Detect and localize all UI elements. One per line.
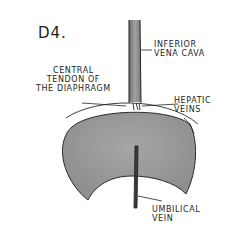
label-central-tendon: CENTRAL TENDON OF THE DIAPHRAGM — [36, 66, 111, 93]
inferior-vena-cava — [129, 20, 141, 102]
label-line: VEINS — [174, 105, 211, 114]
figure-title: D4. — [38, 24, 67, 42]
label-line: VEIN — [152, 214, 200, 223]
umbilical-vein — [134, 146, 138, 208]
label-line: HEPATIC — [174, 96, 211, 105]
hepatic-veins — [133, 103, 140, 110]
label-line: UMBILICAL — [152, 205, 200, 214]
label-line: VENA CAVA — [154, 49, 205, 58]
label-line: THE DIAPHRAGM — [36, 84, 111, 93]
label-umbilical-vein: UMBILICAL VEIN — [152, 205, 200, 223]
label-inferior-vena-cava: INFERIOR VENA CAVA — [154, 40, 205, 58]
liver-shape — [62, 112, 195, 200]
label-line: INFERIOR — [154, 40, 205, 49]
label-line: TENDON OF — [36, 75, 111, 84]
label-line: CENTRAL — [36, 66, 111, 75]
label-hepatic-veins: HEPATIC VEINS — [174, 96, 211, 114]
